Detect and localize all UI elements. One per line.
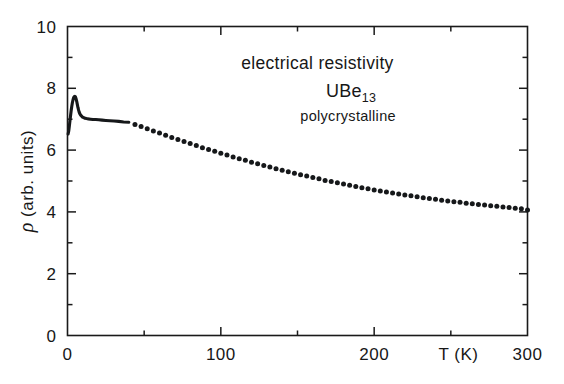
data-point <box>249 160 254 165</box>
data-point <box>445 199 450 204</box>
data-point <box>310 175 315 180</box>
data-point <box>255 161 260 166</box>
data-point <box>494 204 499 209</box>
data-point <box>323 178 328 183</box>
data-point <box>415 194 420 199</box>
data-point <box>151 128 156 133</box>
data-point <box>396 191 401 196</box>
data-point <box>347 183 352 188</box>
data-point <box>316 176 321 181</box>
annotation-title-line: electrical resistivity <box>241 53 393 73</box>
data-point <box>329 179 334 184</box>
x-tick-label: 100 <box>206 345 236 364</box>
data-point <box>274 166 279 171</box>
data-point <box>470 201 475 206</box>
data-point <box>390 191 395 196</box>
data-point <box>439 198 444 203</box>
data-point <box>421 195 426 200</box>
data-point <box>212 149 217 154</box>
data-point <box>519 206 524 211</box>
data-point <box>243 158 248 163</box>
annotation-sample-line: polycrystalline <box>300 108 396 124</box>
data-point <box>298 172 303 177</box>
data-point <box>175 137 180 142</box>
x-tick-label: 300 <box>513 345 543 364</box>
data-point <box>267 165 272 170</box>
data-point <box>182 139 187 144</box>
data-point <box>513 206 518 211</box>
data-point <box>304 174 309 179</box>
y-tick-label: 0 <box>47 327 57 346</box>
data-point <box>482 203 487 208</box>
data-point <box>372 187 377 192</box>
data-point <box>353 184 358 189</box>
data-point <box>525 208 530 213</box>
data-point <box>458 200 463 205</box>
y-tick-label: 10 <box>37 18 57 37</box>
data-point <box>500 204 505 209</box>
data-point <box>261 163 266 168</box>
data-point <box>224 153 229 158</box>
data-point <box>194 143 199 148</box>
data-point <box>231 154 236 159</box>
data-point <box>218 151 223 156</box>
y-tick-label: 6 <box>47 141 57 160</box>
data-point <box>280 168 285 173</box>
figure-page: 01002003000246810 electrical resistivity… <box>0 0 564 384</box>
x-tick-label: 200 <box>359 345 389 364</box>
data-point <box>206 147 211 152</box>
x-tick-label: 0 <box>63 345 73 364</box>
data-point <box>157 131 162 136</box>
data-point <box>433 197 438 202</box>
data-point <box>378 188 383 193</box>
data-point <box>145 126 150 131</box>
data-point <box>286 169 291 174</box>
data-point <box>188 141 193 146</box>
data-point <box>451 199 456 204</box>
x-axis-title: T (K) <box>439 345 479 364</box>
y-axis-title: ρ (arb. units) <box>15 130 38 234</box>
data-point <box>427 196 432 201</box>
data-point <box>507 205 512 210</box>
data-point <box>408 193 413 198</box>
y-tick-label: 2 <box>47 265 57 284</box>
data-point <box>237 156 242 161</box>
data-point <box>292 171 297 176</box>
data-point <box>169 135 174 140</box>
data-point <box>464 201 469 206</box>
data-point <box>359 185 364 190</box>
data-point <box>341 182 346 187</box>
data-point <box>476 202 481 207</box>
data-point <box>200 145 205 150</box>
y-tick-label: 8 <box>47 79 57 98</box>
data-point <box>488 203 493 208</box>
data-point <box>335 180 340 185</box>
y-tick-label: 4 <box>47 203 57 222</box>
data-point <box>139 124 144 129</box>
data-point <box>402 192 407 197</box>
data-point <box>132 122 137 127</box>
resistivity-chart: 01002003000246810 electrical resistivity… <box>0 0 564 384</box>
data-point <box>163 133 168 138</box>
data-point <box>384 190 389 195</box>
data-point <box>366 186 371 191</box>
